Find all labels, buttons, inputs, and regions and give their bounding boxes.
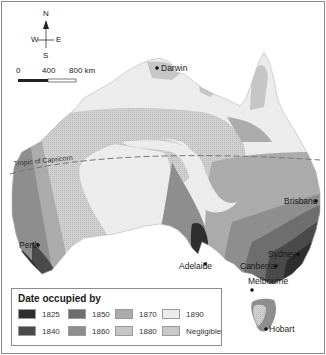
- legend-swatch: [68, 309, 86, 319]
- city-perth: Perth: [19, 241, 39, 250]
- legend-swatch: [115, 326, 133, 336]
- legend-label: 1870: [139, 310, 157, 319]
- scale-label-800: 800 km: [69, 67, 95, 75]
- compass-w-label: W: [31, 36, 39, 44]
- map-frame: N W E S 0 400 800 km Tropic of Capricorn…: [1, 1, 325, 354]
- legend-swatch: [162, 326, 180, 336]
- city-brisbane: Brisbane: [284, 197, 318, 206]
- legend-label: 1840: [42, 327, 60, 336]
- scale-label-0: 0: [16, 67, 20, 75]
- city-sydney: Sydney: [268, 250, 296, 259]
- city-hobart: Hobart: [269, 325, 295, 334]
- legend-label: 1890: [186, 310, 204, 319]
- city-darwin: Darwin: [161, 64, 187, 73]
- legend-label: 1860: [92, 327, 110, 336]
- compass-s-label: S: [43, 52, 48, 60]
- city-melbourne: Melbourne: [248, 277, 288, 286]
- legend-swatch: [68, 326, 86, 336]
- compass-icon: [38, 20, 54, 48]
- city-adelaide: Adelaide: [179, 262, 212, 271]
- legend-label: Negligible: [186, 327, 221, 336]
- compass-e-label: E: [56, 36, 61, 44]
- legend-swatch: [18, 326, 36, 336]
- legend-swatch: [162, 309, 180, 319]
- compass-n-label: N: [43, 10, 49, 18]
- city-canberra: Canberra: [240, 262, 275, 271]
- legend-label: 1880: [139, 327, 157, 336]
- scale-bar: [18, 79, 76, 82]
- legend-swatch: [115, 309, 133, 319]
- legend-swatch: [18, 309, 36, 319]
- legend-title: Date occupied by: [18, 293, 101, 304]
- legend-label: 1850: [92, 310, 110, 319]
- legend: Date occupied by 1825 1840 1850 1860 187…: [11, 288, 222, 346]
- legend-label: 1825: [42, 310, 60, 319]
- scale-label-400: 400: [42, 67, 55, 75]
